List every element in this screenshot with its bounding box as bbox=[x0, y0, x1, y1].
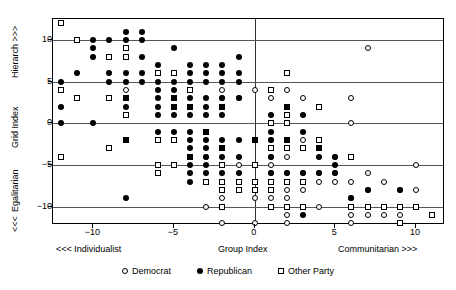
data-point bbox=[348, 154, 354, 160]
data-point bbox=[284, 195, 290, 201]
data-point bbox=[348, 212, 354, 218]
data-point bbox=[203, 162, 209, 168]
data-point bbox=[236, 162, 242, 168]
data-point bbox=[348, 179, 354, 185]
gridline-y--5 bbox=[53, 165, 443, 166]
data-point bbox=[171, 95, 177, 101]
data-point bbox=[219, 145, 225, 151]
data-point bbox=[187, 129, 193, 135]
data-point bbox=[106, 37, 112, 43]
data-point bbox=[284, 187, 290, 193]
data-point bbox=[397, 212, 403, 218]
data-point bbox=[236, 154, 242, 160]
data-point bbox=[139, 37, 145, 43]
data-point bbox=[187, 179, 193, 185]
data-point bbox=[203, 204, 209, 210]
data-point bbox=[171, 112, 177, 118]
data-point bbox=[284, 70, 290, 76]
data-point bbox=[284, 179, 290, 185]
data-point bbox=[155, 95, 161, 101]
data-point bbox=[187, 154, 193, 160]
data-point bbox=[268, 187, 274, 193]
filled-circle-icon bbox=[197, 268, 203, 274]
x-tick-label-5: 5 bbox=[314, 228, 354, 237]
data-point bbox=[155, 70, 161, 76]
data-point bbox=[332, 179, 338, 185]
data-point bbox=[74, 70, 80, 76]
x-tick-label-10: 10 bbox=[395, 228, 435, 237]
data-point bbox=[284, 87, 290, 93]
data-point bbox=[155, 162, 161, 168]
data-point bbox=[332, 170, 338, 176]
data-point bbox=[203, 62, 209, 68]
data-point bbox=[300, 170, 306, 176]
data-point bbox=[203, 137, 209, 143]
data-point bbox=[219, 187, 225, 193]
data-point bbox=[397, 204, 403, 210]
data-point bbox=[139, 79, 145, 85]
data-point bbox=[203, 179, 209, 185]
data-point bbox=[219, 112, 225, 118]
data-point bbox=[284, 112, 290, 118]
data-point bbox=[155, 62, 161, 68]
gridline-y-0 bbox=[53, 123, 443, 124]
y-tick-label--10: −10 bbox=[0, 202, 60, 211]
data-point bbox=[171, 45, 177, 51]
data-point bbox=[171, 87, 177, 93]
data-point bbox=[284, 170, 290, 176]
data-point bbox=[155, 170, 161, 176]
data-point bbox=[219, 87, 225, 93]
y-tick-label--5: −5 bbox=[0, 160, 60, 169]
data-point bbox=[155, 137, 161, 143]
data-point bbox=[187, 87, 193, 93]
data-point bbox=[284, 137, 290, 143]
data-point bbox=[268, 162, 274, 168]
data-point bbox=[203, 112, 209, 118]
data-point bbox=[106, 70, 112, 76]
open-square-icon bbox=[278, 268, 284, 274]
data-point bbox=[106, 79, 112, 85]
data-point bbox=[187, 95, 193, 101]
data-point bbox=[219, 220, 225, 226]
legend-item-republican: Republican bbox=[197, 266, 252, 276]
data-point bbox=[74, 95, 80, 101]
data-point bbox=[187, 112, 193, 118]
data-point bbox=[348, 204, 354, 210]
data-point bbox=[171, 129, 177, 135]
data-point bbox=[268, 154, 274, 160]
data-point bbox=[252, 195, 258, 201]
data-point bbox=[155, 87, 161, 93]
data-point bbox=[219, 70, 225, 76]
data-point bbox=[219, 154, 225, 160]
data-point bbox=[316, 179, 322, 185]
data-point bbox=[187, 162, 193, 168]
data-point bbox=[300, 145, 306, 151]
data-point bbox=[365, 187, 371, 193]
data-point bbox=[123, 95, 129, 101]
open-circle-icon bbox=[122, 268, 128, 274]
data-point bbox=[123, 45, 129, 51]
data-point bbox=[316, 137, 322, 143]
data-point bbox=[284, 154, 290, 160]
data-point bbox=[268, 95, 274, 101]
data-point bbox=[284, 220, 290, 226]
data-point bbox=[123, 37, 129, 43]
data-point bbox=[171, 79, 177, 85]
data-point bbox=[268, 87, 274, 93]
data-point bbox=[187, 104, 193, 110]
x-tick-label--10: −10 bbox=[72, 228, 112, 237]
legend-label-democrat: Democrat bbox=[132, 266, 171, 276]
data-point bbox=[252, 179, 258, 185]
data-point bbox=[123, 137, 129, 143]
data-point bbox=[252, 162, 258, 168]
x-axis-caption-left: <<< Individualist bbox=[56, 244, 121, 254]
data-point bbox=[268, 112, 274, 118]
data-point bbox=[219, 137, 225, 143]
data-point bbox=[171, 162, 177, 168]
data-point bbox=[236, 54, 242, 60]
data-point bbox=[236, 179, 242, 185]
data-point bbox=[187, 145, 193, 151]
data-point bbox=[155, 112, 161, 118]
data-point bbox=[123, 195, 129, 201]
data-point bbox=[365, 45, 371, 51]
